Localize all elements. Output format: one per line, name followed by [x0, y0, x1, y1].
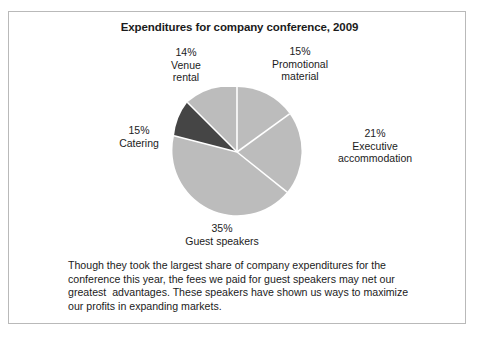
- figure-caption: Though they took the largest share of co…: [68, 259, 416, 313]
- pie-label-promotional-material-name-line2: material: [245, 70, 355, 83]
- pie-label-executive-accommodation: 21% Executive accommodation: [305, 127, 445, 165]
- figure-caption-line-2: conference this year, the fees we paid f…: [68, 273, 416, 287]
- figure-caption-line-3: greatest advantages. These speakers have…: [68, 286, 416, 300]
- pie-label-venue-rental-name-line1: Venue: [146, 59, 226, 72]
- pie-label-executive-accommodation-name-line1: Executive: [305, 140, 445, 153]
- pie-label-catering-percent: 15%: [96, 124, 182, 137]
- figure-caption-line-4: our profits in expanding markets.: [68, 300, 416, 314]
- pie-label-catering: 15% Catering: [96, 124, 182, 149]
- pie-label-venue-rental-name-line2: rental: [146, 71, 226, 84]
- pie-label-executive-accommodation-name-line2: accommodation: [305, 152, 445, 165]
- pie-label-executive-accommodation-percent: 21%: [305, 127, 445, 140]
- pie-label-guest-speakers: 35% Guest speakers: [152, 222, 292, 247]
- pie-label-venue-rental: 14% Venue rental: [146, 46, 226, 84]
- figure-page: Expenditures for company conference, 200…: [0, 0, 479, 338]
- pie-label-promotional-material-name-line1: Promotional: [245, 58, 355, 71]
- pie-label-catering-name: Catering: [96, 137, 182, 150]
- pie-chart: 14% Venue rental 15% Promotional materia…: [0, 0, 479, 260]
- pie-label-guest-speakers-name: Guest speakers: [152, 235, 292, 248]
- pie-label-promotional-material: 15% Promotional material: [245, 45, 355, 83]
- pie-label-guest-speakers-percent: 35%: [152, 222, 292, 235]
- pie-label-venue-rental-percent: 14%: [146, 46, 226, 59]
- pie-chart-svg: [172, 87, 302, 217]
- pie-label-promotional-material-percent: 15%: [245, 45, 355, 58]
- figure-caption-line-1: Though they took the largest share of co…: [68, 259, 416, 273]
